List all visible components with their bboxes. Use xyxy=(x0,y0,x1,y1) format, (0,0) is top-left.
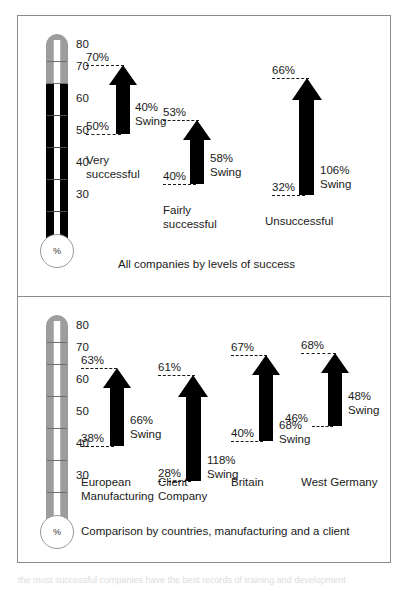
thermometer-bulb-top: % xyxy=(40,234,74,268)
leader-line-bottom xyxy=(312,426,333,427)
swing-value: 58% xyxy=(210,152,241,166)
value-label-bottom: 32% xyxy=(272,181,295,194)
leader-line-top xyxy=(86,65,124,66)
category-line-1: West Germany xyxy=(301,475,377,489)
panel-all-companies: % 80 70 60 50 40 30 70% 50% 40% xyxy=(18,16,390,297)
leader-line-top xyxy=(158,375,195,376)
value-label-bottom: 40% xyxy=(231,427,254,440)
thermometer-tick-30 xyxy=(47,492,67,493)
leader-line-bottom xyxy=(231,441,263,442)
category-line-1: Fairly xyxy=(163,203,217,217)
category-line-1: European xyxy=(81,475,154,489)
swing-annotation: 48% Swing xyxy=(348,390,379,417)
swing-annotation: 40% Swing xyxy=(135,101,166,128)
arrow-head-icon xyxy=(109,65,137,85)
panel-caption-top: All companies by levels of success xyxy=(118,258,295,270)
arrow-head-icon xyxy=(252,355,280,375)
swing-word: Swing xyxy=(135,115,166,129)
value-label-top: 61% xyxy=(158,361,181,374)
leader-line-bottom xyxy=(81,446,114,447)
category-label: West Germany xyxy=(301,475,377,489)
thermometer-tick-50 xyxy=(47,428,67,429)
swing-value: 40% xyxy=(135,101,166,115)
thermometer-unit-label: % xyxy=(41,527,73,537)
swing-word: Swing xyxy=(320,178,351,192)
leader-line-top xyxy=(231,355,267,356)
swing-value: 66% xyxy=(130,414,161,428)
category-label: Britain xyxy=(231,475,264,489)
arrow-shaft xyxy=(190,139,204,184)
scale-label-60: 60 xyxy=(76,373,89,385)
arrow-head-icon xyxy=(178,375,208,397)
leader-line-top xyxy=(272,78,309,79)
page-scan-artifact-text: the most successful companies have the b… xyxy=(18,575,390,585)
thermometer-bulb-bottom: % xyxy=(40,515,74,549)
value-label-top: 67% xyxy=(231,341,254,354)
arrow-head-icon xyxy=(103,368,131,388)
arrow-shaft xyxy=(328,372,342,426)
thermometer-bottom xyxy=(46,315,68,521)
thermometer-tick-80 xyxy=(47,61,67,62)
swing-value: 118% xyxy=(207,454,238,468)
category-label: European Manufacturing xyxy=(81,475,154,503)
category-line-2: successful xyxy=(86,167,140,181)
category-line-1: Very xyxy=(86,153,140,167)
thermometer-inner-tube xyxy=(53,321,61,521)
thermometer-tick-50 xyxy=(47,147,67,148)
value-label-bottom: 46% xyxy=(285,412,308,425)
scale-label-30: 30 xyxy=(76,188,89,200)
arrow-shaft xyxy=(259,374,273,441)
swing-word: Swing xyxy=(348,404,379,418)
value-label-top: 63% xyxy=(81,354,104,367)
value-label-top: 70% xyxy=(86,51,109,64)
category-label: Fairly successful xyxy=(163,203,217,231)
category-line-2: Manufacturing xyxy=(81,489,154,503)
thermometer-tick-40 xyxy=(47,460,67,461)
category-line-2: Company xyxy=(158,489,207,503)
value-label-top: 68% xyxy=(301,339,324,352)
category-line-1: Unsuccessful xyxy=(265,214,333,228)
leader-line-top xyxy=(301,353,336,354)
thermometer-unit-label: % xyxy=(41,246,73,256)
scale-label-70: 70 xyxy=(76,341,89,353)
arrow-head-icon xyxy=(292,78,322,100)
category-label: Client Company xyxy=(158,475,207,503)
swing-annotation: 58% Swing xyxy=(210,152,241,179)
leader-line-bottom xyxy=(163,184,196,185)
panel-caption-bottom: Comparison by countries, manufacturing a… xyxy=(81,525,349,537)
swing-annotation: 106% Swing xyxy=(320,164,351,191)
value-label-top: 66% xyxy=(272,64,295,77)
scale-label-80: 80 xyxy=(76,319,89,331)
arrow-shaft xyxy=(116,84,130,134)
thermometer-tick-80 xyxy=(47,342,67,343)
category-label: Unsuccessful xyxy=(265,214,333,228)
arrow-shaft xyxy=(299,99,314,195)
arrow-head-icon xyxy=(183,120,211,140)
scale-label-80: 80 xyxy=(76,38,89,50)
swing-value: 106% xyxy=(320,164,351,178)
infographic-frame: % 80 70 60 50 40 30 70% 50% 40% xyxy=(17,15,391,563)
thermometer-tick-40 xyxy=(47,179,67,180)
swing-annotation: 66% Swing xyxy=(130,414,161,441)
swing-word: Swing xyxy=(279,433,310,447)
value-label-top: 53% xyxy=(163,106,186,119)
leader-line-top xyxy=(81,368,117,369)
swing-word: Swing xyxy=(210,166,241,180)
thermometer-tick-60 xyxy=(47,396,67,397)
category-line-2: successful xyxy=(163,217,217,231)
swing-word: Swing xyxy=(130,428,161,442)
scale-label-50: 50 xyxy=(76,405,89,417)
value-label-bottom: 38% xyxy=(81,432,104,445)
panel-by-country: % 80 70 60 50 40 30 63% 38% 66% Swing xyxy=(18,297,390,563)
thermometer-top xyxy=(46,34,68,240)
leader-line-top xyxy=(163,120,199,121)
thermometer-mercury-fill xyxy=(46,84,68,240)
arrow-shaft xyxy=(110,387,124,446)
scale-label-60: 60 xyxy=(76,92,89,104)
arrow-head-icon xyxy=(321,353,349,373)
leader-line-bottom xyxy=(86,134,121,135)
thermometer-tick-70 xyxy=(47,364,67,365)
category-label: Very successful xyxy=(86,153,140,181)
thermometer-tick-70 xyxy=(47,83,67,84)
arrow-shaft xyxy=(186,396,201,481)
